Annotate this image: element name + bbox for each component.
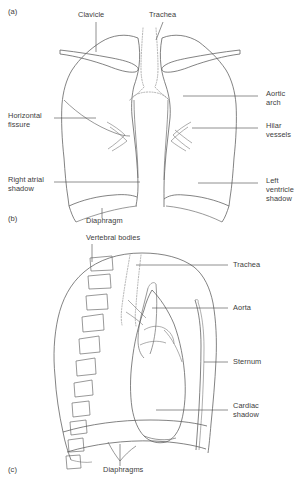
diaphragm-lower-sweep-left: [166, 206, 222, 222]
lateral-chest-drawing: [54, 244, 228, 469]
frontal-chest-drawing: [54, 22, 258, 222]
vertebral-bodies-column: [66, 256, 113, 469]
sternum-inner-edge: [198, 302, 204, 450]
vertebral-body: [68, 438, 84, 452]
label-trachea-lateral: Trachea: [233, 261, 260, 270]
lateral-diaphragm-lower: [67, 441, 206, 452]
label-aorta: Aorta: [233, 304, 251, 313]
panel-c-id: (c): [8, 465, 17, 474]
label-diaphragm: Diaphragm: [86, 217, 123, 226]
label-clavicle: Clavicle: [78, 11, 104, 20]
vertebral-body: [90, 256, 113, 271]
label-sternum: Sternum: [233, 358, 261, 367]
lateral-anterior-wall: [142, 253, 216, 453]
label-trachea-frontal: Trachea: [149, 11, 176, 20]
cardiophrenic-junction: [144, 436, 176, 440]
left-hemidiaphragm: [164, 195, 229, 206]
label-hilar-vessels-line2: vessels: [266, 131, 291, 140]
sternum-line: [195, 300, 201, 450]
label-left-ventricle-line3: shadow: [266, 195, 292, 204]
right-costophrenic-angle: [69, 206, 76, 222]
leader-trachea-top: [156, 22, 163, 40]
heart-upper-border-dotted: [130, 92, 169, 100]
right-clavicle: [60, 50, 138, 72]
label-aortic-arch-line2: arch: [266, 99, 281, 108]
vertebral-body: [79, 336, 100, 354]
vertebral-body: [74, 380, 93, 397]
panel-a-id: (a): [8, 7, 17, 16]
diaphragm-dome-fold: [108, 442, 136, 461]
lateral-vessel-stripe: [164, 330, 182, 362]
label-right-atrial-line2: shadow: [8, 185, 34, 194]
vertebral-body: [88, 274, 111, 289]
label-cardiac-shadow-line2: shadow: [233, 411, 259, 420]
posterior-costophrenic-recess: [71, 460, 92, 462]
right-lung-outline: [62, 35, 138, 206]
trachea-dotted-left: [141, 28, 144, 87]
panel-b-id: (b): [8, 214, 17, 223]
lateral-trachea-anterior: [121, 255, 130, 325]
label-diaphragms: Diaphragms: [103, 466, 143, 475]
vertebral-body: [86, 294, 108, 310]
lateral-thorax-outline: [54, 253, 142, 460]
vertebral-body: [76, 358, 96, 376]
right-hemidiaphragm: [69, 195, 137, 206]
carina-dotted: [130, 87, 169, 100]
right-hilar-vessels: [107, 122, 127, 151]
vertebral-body: [72, 401, 90, 417]
vertebral-body: [82, 314, 104, 332]
right-heart-border: [132, 38, 140, 206]
left-hilar-vessels: [171, 122, 192, 151]
vertebral-body: [70, 420, 87, 435]
aortic-knuckle: [148, 283, 156, 288]
left-lung-outline: [162, 35, 236, 206]
label-horizontal-fissure-line2: fissure: [8, 121, 30, 130]
lateral-trachea-posterior: [135, 255, 141, 326]
figure-canvas: (a) (b) (c) Clavicle Trachea Aortic arch…: [0, 0, 298, 479]
lateral-diaphragm-upper: [63, 420, 207, 432]
left-clavicle: [162, 50, 240, 72]
label-vertebral-bodies: Vertebral bodies: [86, 234, 140, 243]
left-costophrenic-angle: [222, 206, 229, 222]
